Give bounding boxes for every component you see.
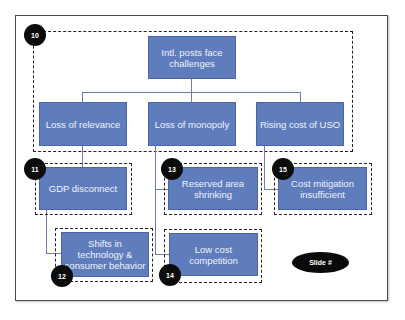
node-label: Cost mitigation insufficient <box>281 178 364 200</box>
node-label: Loss of relevance <box>46 119 120 130</box>
node-shifts-technology[interactable]: Shifts in technology & consumer behavior <box>61 232 149 277</box>
connector-to-monopoly <box>191 92 192 102</box>
slide-number-badge: Slide # <box>292 252 349 273</box>
node-label: Shifts in technology & consumer behavior <box>64 238 146 271</box>
slide-number-label: Slide # <box>309 259 332 266</box>
badge-number: 14 <box>166 272 174 279</box>
node-rising-cost-uso[interactable]: Rising cost of USO <box>256 102 344 146</box>
node-label: GDP disconnect <box>49 183 117 194</box>
badge-number: 10 <box>31 32 39 39</box>
badge-number: 11 <box>31 166 38 173</box>
badge-11: 11 <box>24 158 46 180</box>
badge-number: 12 <box>58 273 66 280</box>
node-label: Low cost competition <box>172 244 255 266</box>
node-label: Loss of monopoly <box>155 119 229 130</box>
node-gdp-disconnect[interactable]: GDP disconnect <box>39 167 127 210</box>
connector-root-down <box>191 79 192 92</box>
connector-to-uso <box>300 92 301 102</box>
node-low-cost-competition[interactable]: Low cost competition <box>169 233 258 276</box>
badge-15: 15 <box>272 158 294 180</box>
badge-12: 12 <box>51 265 73 287</box>
connector-gdp-shifts-v <box>46 210 47 254</box>
node-root[interactable]: Intl. posts face challenges <box>148 36 236 79</box>
badge-number: 15 <box>279 166 287 173</box>
connector-uso-v <box>264 146 265 190</box>
node-label: Rising cost of USO <box>260 119 340 130</box>
badge-number: 13 <box>168 166 176 173</box>
connector-monopoly-v <box>155 146 156 254</box>
node-root-label: Intl. posts face challenges <box>151 47 233 69</box>
node-loss-of-monopoly[interactable]: Loss of monopoly <box>148 102 236 146</box>
node-loss-of-relevance[interactable]: Loss of relevance <box>39 102 127 146</box>
badge-13: 13 <box>161 158 183 180</box>
connector-to-relevance <box>82 92 83 102</box>
node-label: Reserved area shrinking <box>171 178 255 200</box>
badge-14: 14 <box>159 264 181 286</box>
badge-10: 10 <box>24 24 46 46</box>
